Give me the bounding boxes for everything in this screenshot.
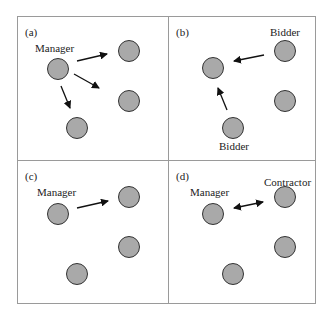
- agent-node: [222, 263, 244, 285]
- agent-node: [118, 90, 140, 112]
- bidder-label: Bidder: [270, 26, 300, 38]
- bidder-node: [274, 40, 296, 62]
- agent-node: [66, 117, 88, 139]
- manager-label: Manager: [35, 42, 74, 54]
- agent-node: [118, 186, 140, 208]
- contractor-node: [274, 186, 296, 208]
- panel-tag: (d): [176, 170, 189, 182]
- manager-label: Manager: [37, 186, 76, 198]
- agent-node: [274, 236, 296, 258]
- panel-tag: (a): [25, 26, 37, 38]
- panel-tag: (c): [25, 170, 37, 182]
- panel-tag: (b): [176, 26, 189, 38]
- manager-node: [202, 57, 224, 79]
- agent-node: [274, 90, 296, 112]
- manager-label: Manager: [190, 186, 229, 198]
- manager-node: [47, 203, 69, 225]
- agent-node: [118, 236, 140, 258]
- manager-node: [47, 58, 69, 80]
- bidder-node: [222, 117, 244, 139]
- bidder-label: Bidder: [219, 140, 249, 152]
- agent-node: [118, 40, 140, 62]
- manager-node: [202, 203, 224, 225]
- agent-node: [66, 263, 88, 285]
- horizontal-divider: [17, 160, 316, 161]
